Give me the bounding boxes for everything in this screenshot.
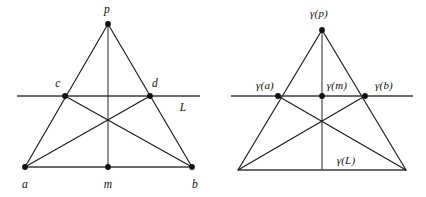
right-point-gamma-a [275,93,281,99]
right-label-gamma-m: γ(m) [327,80,347,91]
left-cevian-b-c [65,96,192,167]
right-label-gamma-L: γ(L) [337,155,356,166]
geometry-diagram-canvas [0,0,426,197]
right-edge-apex-baseright [322,30,406,170]
left-point-c [62,93,68,99]
right-edge-apex-baseleft [238,30,322,170]
left-label-c: c [55,78,60,90]
left-label-a: a [22,179,28,191]
right-point-gamma-m [319,93,325,99]
left-diagram-group [17,21,200,170]
right-diagram-group [231,27,413,170]
right-label-gamma-p: γ(p) [310,8,328,19]
right-point-gamma-b [362,93,368,99]
left-cevian-a-d [25,96,150,167]
left-point-p [105,21,111,27]
left-label-secant-L: L [180,102,187,114]
left-label-b: b [192,179,198,191]
right-label-gamma-b: γ(b) [375,80,393,91]
left-point-m [105,164,111,170]
left-point-a [22,164,28,170]
left-label-m: m [104,179,113,191]
left-point-d [147,93,153,99]
right-label-gamma-a: γ(a) [256,80,274,91]
left-point-b [189,164,195,170]
figure-root: p c d a m b L γ(p) γ(a) γ(m) γ(b) γ(L) [0,0,426,197]
right-point-gamma-p [319,27,325,33]
left-label-p: p [104,4,110,16]
left-label-d: d [152,78,158,90]
